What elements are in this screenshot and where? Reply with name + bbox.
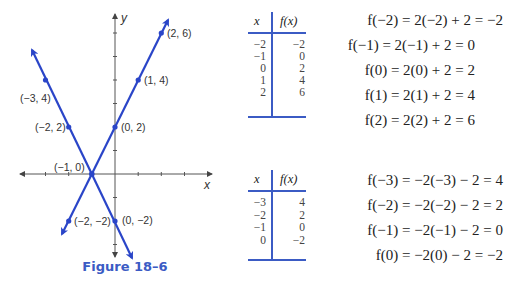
equation: f(1) = 2(1) + 2 = 4 (365, 87, 475, 104)
table2-cell: 2 (283, 209, 305, 221)
equation: f(0) = 2(0) + 2 = 2 (365, 62, 475, 79)
table2-divider (271, 170, 273, 261)
table1-header-fx: f(x) (280, 14, 297, 29)
table2-header-x: x (254, 172, 260, 187)
table1-cell: −2 (283, 38, 305, 50)
y-axis-label: y (120, 11, 128, 25)
label-neg1-0: (−1, 0) (54, 161, 85, 173)
label-neg2-neg2: (−2, −2) (74, 215, 111, 227)
table2-header-fx: f(x) (280, 172, 297, 187)
table1-header-rule (248, 32, 306, 34)
table1-divider (271, 12, 273, 118)
table1-cell: −2 (244, 38, 266, 50)
point-2-6 (159, 30, 164, 35)
table1-cell: 6 (283, 86, 305, 98)
x-axis (20, 172, 212, 176)
x-axis-label: x (203, 178, 211, 192)
table1-cell: 2 (244, 86, 266, 98)
point-neg1-0 (89, 171, 95, 177)
table2-cell: −3 (244, 196, 266, 208)
point-neg2-2 (66, 124, 71, 129)
point-neg3-4 (43, 77, 48, 82)
point-0-neg2 (112, 218, 117, 223)
table1-cell: −1 (244, 50, 266, 62)
label-neg2-2: (−2, 2) (35, 121, 66, 133)
value-table-1: x f(x) −2 −2 −1 0 0 2 1 4 2 6 (246, 12, 308, 120)
equation: f(−2) = −2(−2) − 2 = 2 (367, 197, 503, 214)
table1-cell: 0 (283, 50, 305, 62)
table2-bottom-rule (248, 259, 306, 261)
point-1-4 (136, 77, 141, 82)
point-0-2 (112, 124, 117, 129)
label-0-2: (0, 2) (121, 121, 146, 133)
equation: f(−3) = −2(−3) − 2 = 4 (367, 172, 503, 189)
label-2-6: (2, 6) (167, 27, 192, 39)
table1-cell: 2 (283, 62, 305, 74)
table2-cell: 4 (283, 196, 305, 208)
equation: f(−1) = 2(−1) + 2 = 0 (348, 37, 475, 54)
label-0-neg2: (0, −2) (122, 214, 153, 226)
table2-header-rule (248, 190, 306, 192)
value-table-2: x f(x) −3 4 −2 2 −1 0 0 −2 (246, 170, 308, 262)
equation: f(2) = 2(2) + 2 = 6 (365, 112, 475, 129)
equation: f(−2) = 2(−2) + 2 = −2 (367, 12, 503, 29)
table2-cell: −2 (283, 234, 305, 246)
equation: f(−1) = −2(−1) − 2 = 0 (367, 222, 503, 239)
point-neg2-neg2 (66, 218, 71, 223)
table1-cell: 1 (244, 74, 266, 86)
table2-cell: 0 (244, 234, 266, 246)
figure-graph: y x (2, 6) (1, 4) (0, 2) (−3, 4) (−2, 2)… (0, 0, 230, 283)
label-neg3-4: (−3, 4) (20, 92, 51, 104)
figure-caption: Figure 18–6 (80, 259, 170, 274)
table1-header-x: x (254, 14, 260, 29)
table2-cell: 0 (283, 221, 305, 233)
table1-bottom-rule (248, 116, 306, 118)
label-1-4: (1, 4) (144, 74, 169, 86)
table2-cell: −2 (244, 209, 266, 221)
equation: f(0) = −2(0) − 2 = −2 (376, 247, 503, 264)
table1-cell: 0 (244, 62, 266, 74)
table1-cell: 4 (283, 74, 305, 86)
table2-cell: −1 (244, 221, 266, 233)
